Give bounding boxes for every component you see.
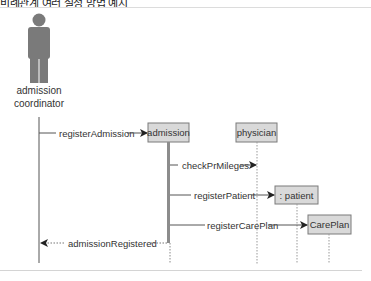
person-icon xyxy=(28,14,50,84)
object-label: CarePlan xyxy=(310,219,350,230)
sequence-diagram: admission coordinator admission physicia… xyxy=(0,0,371,281)
admission-activation-bar xyxy=(167,142,170,243)
bottom-divider xyxy=(0,270,362,271)
object-label: : patient xyxy=(280,190,314,201)
message-register-patient: registerPatient xyxy=(170,190,274,201)
object-label: admission xyxy=(147,127,190,138)
object-admission[interactable]: admission xyxy=(147,123,190,142)
message-check-privileges: checkPrMileges xyxy=(170,160,256,171)
svg-text:registerPatient: registerPatient xyxy=(194,190,256,201)
actor-label-line1: admission xyxy=(16,85,61,96)
object-label: physician xyxy=(237,127,277,138)
svg-text:registerCarePlan: registerCarePlan xyxy=(207,220,278,231)
message-admission-registered: admissionRegistered xyxy=(41,238,167,249)
svg-text:admissionRegistered: admissionRegistered xyxy=(68,238,157,249)
object-careplan[interactable]: CarePlan xyxy=(308,215,351,234)
svg-text:registerAdmission: registerAdmission xyxy=(59,128,135,139)
message-register-careplan: registerCarePlan xyxy=(170,220,307,231)
svg-text:checkPrMileges: checkPrMileges xyxy=(182,160,249,171)
actor-label-line2: coordinator xyxy=(14,98,65,109)
message-register-admission: registerAdmission xyxy=(39,128,147,139)
object-patient[interactable]: : patient xyxy=(275,186,318,204)
object-physician[interactable]: physician xyxy=(236,123,277,142)
